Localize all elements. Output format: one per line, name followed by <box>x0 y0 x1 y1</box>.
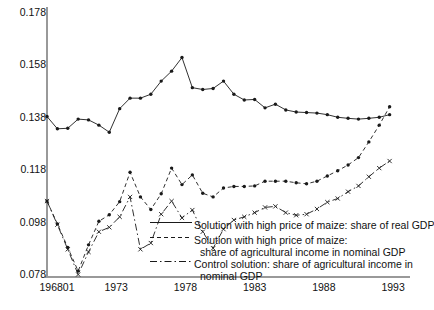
data-point <box>180 216 184 220</box>
y-tick-label-3: 0.118 <box>0 163 46 175</box>
data-point <box>284 108 287 111</box>
data-point <box>170 166 173 169</box>
data-point <box>86 250 90 254</box>
data-point <box>159 212 163 216</box>
x-tick-label-5: 1993 <box>371 281 415 293</box>
y-tick-label-1: 0.158 <box>0 58 46 70</box>
x-tick-label-0: 196801 <box>35 281 79 293</box>
data-point <box>378 123 381 126</box>
data-point <box>170 69 173 72</box>
data-point <box>315 207 319 211</box>
data-point <box>388 159 392 163</box>
data-point <box>357 117 360 120</box>
data-point <box>263 180 266 183</box>
data-point <box>326 174 329 177</box>
data-point <box>274 180 277 183</box>
y-tick-label-4: 0.098 <box>0 216 46 228</box>
y-tick-label-2: 0.138 <box>0 111 46 123</box>
data-point <box>367 175 371 179</box>
data-point <box>149 93 152 96</box>
data-point <box>211 87 214 90</box>
series-0-line <box>47 58 390 133</box>
data-point <box>139 195 142 198</box>
data-point <box>326 113 329 116</box>
data-point <box>128 171 131 174</box>
data-point <box>222 186 225 189</box>
data-point <box>232 93 235 96</box>
data-point <box>356 184 360 188</box>
y-tick-label-0: 0.178 <box>0 6 46 18</box>
data-point <box>357 156 360 159</box>
data-point <box>201 88 204 91</box>
data-point <box>315 180 318 183</box>
data-point <box>367 140 370 143</box>
data-point <box>377 166 381 170</box>
legend-label-0-line-0: Solution with high price of maize: share… <box>194 219 434 232</box>
data-point <box>149 241 153 245</box>
data-point <box>253 184 256 187</box>
data-point <box>118 200 121 203</box>
data-point <box>304 212 308 216</box>
x-tick-label-3: 1983 <box>233 281 277 293</box>
data-point <box>222 79 225 82</box>
x-tick-label-1: 1973 <box>94 281 138 293</box>
data-point <box>108 131 111 134</box>
data-point <box>76 117 79 120</box>
data-point <box>97 123 100 126</box>
legend-label-2-line-0: Control solution: share of agricultural … <box>194 258 413 271</box>
x-tick-label-2: 1978 <box>163 281 207 293</box>
data-point <box>149 208 152 211</box>
legend-label-1-line-1: share of agricultural income in nominal … <box>200 246 405 259</box>
data-point <box>169 199 173 203</box>
data-point <box>191 86 194 89</box>
data-point <box>305 111 308 114</box>
data-point <box>378 116 381 119</box>
data-point <box>180 183 183 186</box>
data-point <box>388 105 391 108</box>
data-point <box>305 182 308 185</box>
data-point <box>97 220 100 223</box>
data-point <box>190 208 194 212</box>
data-point <box>263 106 266 109</box>
data-point <box>87 118 90 121</box>
data-point <box>315 111 318 114</box>
data-point <box>336 169 339 172</box>
data-point <box>243 98 246 101</box>
data-point <box>66 127 69 130</box>
data-point <box>108 213 111 216</box>
data-point <box>211 195 214 198</box>
data-point <box>76 272 80 276</box>
data-point <box>346 117 349 120</box>
data-point <box>294 110 297 113</box>
data-point <box>336 196 340 200</box>
data-point <box>160 192 163 195</box>
data-point <box>273 204 277 208</box>
data-point <box>294 181 297 184</box>
series-0 <box>45 56 391 134</box>
data-point <box>180 56 183 59</box>
legend-label-1-line-0: Solution with high price of maize: <box>194 234 348 247</box>
data-point <box>97 230 101 234</box>
data-point <box>139 96 142 99</box>
data-point <box>201 192 204 195</box>
data-point <box>284 211 288 215</box>
data-point <box>128 96 131 99</box>
data-point <box>388 113 391 116</box>
data-point <box>87 243 90 246</box>
y-tick-label-5: 0.078 <box>0 268 46 280</box>
legend-label-2-line-1: nominal GDP <box>200 270 262 283</box>
data-point <box>325 200 329 204</box>
data-point <box>191 173 194 176</box>
data-point <box>243 185 246 188</box>
data-point <box>346 163 349 166</box>
x-tick-label-4: 1988 <box>302 281 346 293</box>
data-point <box>118 107 121 110</box>
data-point <box>367 117 370 120</box>
data-point <box>107 225 111 229</box>
data-point <box>56 127 59 130</box>
data-point <box>160 79 163 82</box>
data-point <box>346 190 350 194</box>
data-point <box>284 180 287 183</box>
data-point <box>253 211 257 215</box>
